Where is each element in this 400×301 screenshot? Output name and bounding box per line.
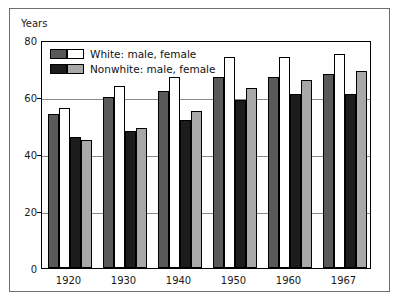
legend-label: Nonwhite: male, female (90, 63, 215, 75)
bar (191, 111, 202, 268)
x-tick-label: 1960 (276, 275, 301, 286)
bar (301, 80, 312, 268)
bar (48, 114, 59, 268)
bar (103, 97, 114, 268)
chart-figure: Years 020406080 192019301940195019601967… (0, 0, 400, 301)
bar (345, 94, 356, 268)
y-tick-label: 20 (24, 207, 37, 218)
chart-legend: White: male, femaleNonwhite: male, femal… (48, 45, 219, 79)
bar (334, 54, 345, 268)
x-tick-label: 1950 (221, 275, 246, 286)
bar (125, 131, 136, 268)
y-tick-label: 60 (24, 93, 37, 104)
bar (224, 57, 235, 268)
bar (70, 137, 81, 268)
bar (180, 120, 191, 268)
legend-item: White: male, female (50, 47, 215, 61)
legend-label: White: male, female (90, 48, 196, 60)
bar (356, 71, 367, 268)
legend-swatch (67, 49, 84, 59)
bar (169, 77, 180, 268)
legend-item: Nonwhite: male, female (50, 62, 215, 76)
legend-swatch-pair (50, 49, 84, 59)
legend-swatch (50, 49, 67, 59)
y-tick-label: 0 (31, 264, 37, 275)
x-tick-label: 1967 (331, 275, 356, 286)
bar (81, 140, 92, 268)
legend-swatch (67, 64, 84, 74)
bar (235, 100, 246, 268)
x-tick-label: 1920 (56, 275, 81, 286)
legend-swatch (50, 64, 67, 74)
bar-group (268, 42, 312, 268)
bar (279, 57, 290, 268)
bar (268, 77, 279, 268)
bar (136, 128, 147, 268)
bar (246, 88, 257, 268)
y-axis-label: Years (21, 18, 47, 29)
y-tick-label: 40 (24, 150, 37, 161)
x-tick-label: 1930 (111, 275, 136, 286)
bar (213, 77, 224, 268)
y-tick-label: 80 (24, 36, 37, 47)
x-tick-label: 1940 (166, 275, 191, 286)
legend-swatch-pair (50, 64, 84, 74)
bar (158, 91, 169, 268)
bar (323, 74, 334, 268)
bar (114, 86, 125, 268)
bar (59, 108, 70, 268)
bar-group (323, 42, 367, 268)
bar (290, 94, 301, 268)
